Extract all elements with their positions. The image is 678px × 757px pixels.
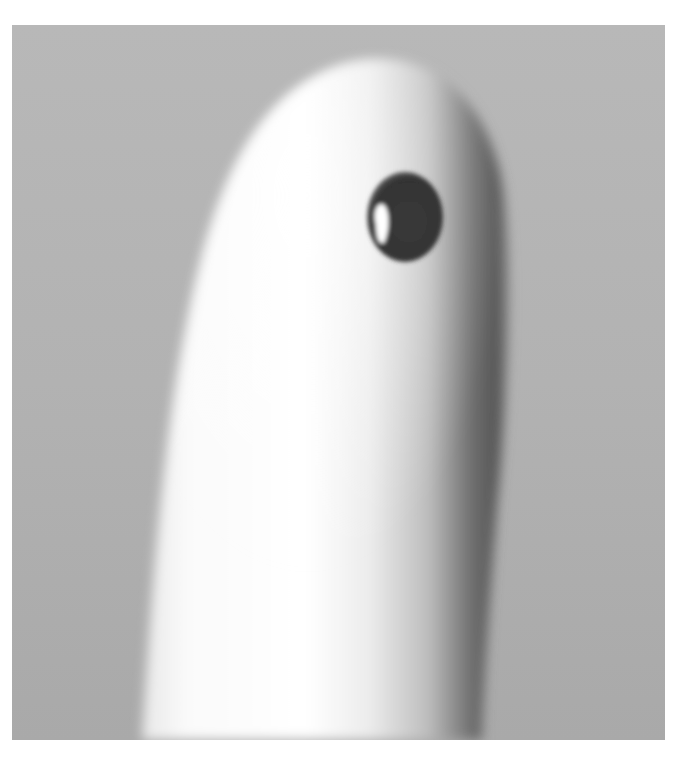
droplet — [367, 172, 443, 262]
finger-highlight — [142, 60, 509, 740]
finger — [142, 60, 509, 740]
fingertip-scene — [12, 25, 665, 740]
photograph — [12, 25, 665, 740]
